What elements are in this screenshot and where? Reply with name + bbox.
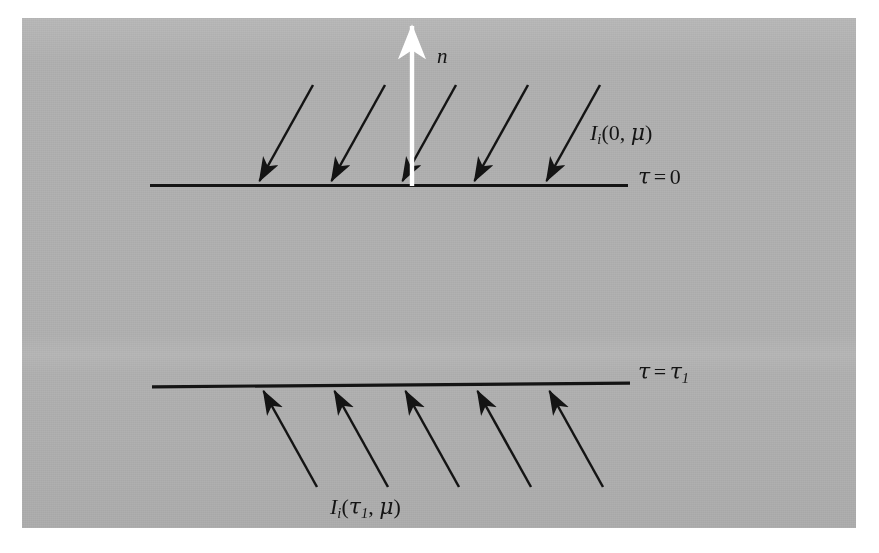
mu-symbol-bottom: μ: [379, 494, 393, 519]
normal-vector-symbol: n: [437, 44, 448, 68]
incident-ray-bottom-3: [406, 391, 460, 487]
tau-one-value: τ: [670, 359, 682, 384]
incident-ray-top-2: [332, 85, 386, 181]
tau-symbol-top: τ: [638, 164, 650, 189]
tau-one-label: τ=τ1: [638, 361, 689, 383]
incident-ray-bottom-2: [335, 391, 389, 487]
tau-zero-label: τ=0: [638, 166, 681, 188]
incident-rays-bottom-group: [264, 391, 604, 487]
incident-ray-bottom-5: [550, 391, 604, 487]
intensity-open-bottom: (: [341, 494, 348, 519]
normal-vector-label: n: [437, 46, 448, 67]
tau-symbol-arg-bottom: τ: [349, 494, 361, 519]
figure-page: n Ii(0, μ) τ=0 τ=τ1 Ii(τ1, μ): [0, 0, 879, 553]
tau-one-subscript: 1: [682, 370, 689, 386]
tau-zero-value: 0: [670, 164, 681, 189]
equals-sign-top: =: [650, 164, 669, 189]
incident-intensity-top-label: Ii(0, μ): [590, 122, 652, 144]
incident-ray-top-1: [260, 85, 314, 181]
intensity-close-bottom: ): [393, 494, 400, 519]
incident-rays-top-group: [260, 85, 601, 181]
incident-ray-bottom-4: [478, 391, 532, 487]
incident-intensity-bottom-label: Ii(τ1, μ): [330, 496, 401, 518]
tau-symbol-bottom: τ: [638, 359, 650, 384]
intensity-close-top: ): [645, 120, 652, 145]
equals-sign-bottom: =: [650, 359, 669, 384]
diagram-canvas: [0, 0, 879, 553]
mu-symbol-top: μ: [631, 120, 645, 145]
intensity-comma-bottom: ,: [368, 494, 379, 519]
bottom-boundary-line: [152, 383, 630, 387]
intensity-args-top: (0,: [601, 120, 630, 145]
incident-ray-top-4: [475, 85, 529, 181]
incident-ray-bottom-1: [264, 391, 318, 487]
